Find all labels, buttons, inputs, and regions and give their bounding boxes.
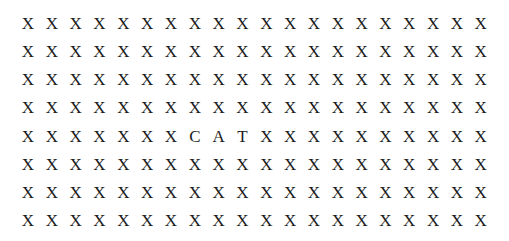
grid-cell: X [234, 155, 250, 175]
grid-cell: C [187, 127, 203, 147]
grid-cell: X [44, 183, 60, 203]
grid-cell: X [282, 127, 298, 147]
grid-cell: X [211, 155, 227, 175]
grid-cell: X [330, 14, 346, 34]
grid-cell: X [68, 42, 84, 62]
grid-row: XXXXXXXXXXXXXXXXXXXX [20, 155, 489, 175]
grid-cell: X [473, 211, 489, 231]
grid-cell: X [139, 211, 155, 231]
grid-cell: X [449, 211, 465, 231]
grid-cell: X [377, 98, 393, 118]
grid-cell: X [139, 155, 155, 175]
grid-cell: X [91, 127, 107, 147]
grid-cell: X [20, 14, 36, 34]
grid-cell: X [211, 98, 227, 118]
grid-cell: X [91, 183, 107, 203]
grid-cell: X [44, 127, 60, 147]
grid-cell: X [68, 98, 84, 118]
grid-cell: X [258, 127, 274, 147]
grid-row: XXXXXXXXXXXXXXXXXXXX [20, 98, 489, 118]
grid-cell: X [20, 70, 36, 90]
grid-cell: X [473, 70, 489, 90]
grid-cell: X [187, 70, 203, 90]
grid-cell: X [115, 183, 131, 203]
grid-cell: X [20, 155, 36, 175]
grid-cell: X [401, 98, 417, 118]
grid-cell: X [282, 183, 298, 203]
grid-cell: X [306, 183, 322, 203]
grid-cell: X [258, 42, 274, 62]
grid-cell: X [354, 70, 370, 90]
grid-row: XXXXXXXXXXXXXXXXXXXX [20, 14, 489, 34]
grid-cell: X [306, 98, 322, 118]
grid-cell: X [473, 183, 489, 203]
grid-cell: X [473, 42, 489, 62]
grid-cell: X [282, 42, 298, 62]
grid-cell: X [258, 155, 274, 175]
grid-cell: X [449, 155, 465, 175]
grid-cell: X [20, 183, 36, 203]
grid-cell: X [473, 14, 489, 34]
grid-row: XXXXXXXCATXXXXXXXXXX [20, 127, 489, 147]
grid-cell: X [258, 70, 274, 90]
grid-cell: X [425, 14, 441, 34]
grid-cell: X [91, 42, 107, 62]
grid-cell: X [20, 127, 36, 147]
grid-cell: X [354, 42, 370, 62]
grid-cell: X [306, 127, 322, 147]
grid-cell: X [258, 14, 274, 34]
grid-cell: X [330, 127, 346, 147]
grid-cell: X [401, 155, 417, 175]
grid-cell: X [211, 42, 227, 62]
grid-cell: X [139, 183, 155, 203]
grid-cell: X [115, 211, 131, 231]
grid-cell: X [234, 211, 250, 231]
grid-cell: X [68, 183, 84, 203]
grid-cell: X [377, 127, 393, 147]
grid-cell: X [401, 183, 417, 203]
grid-cell: X [44, 70, 60, 90]
grid-cell: X [330, 211, 346, 231]
grid-cell: X [234, 98, 250, 118]
grid-cell: X [401, 127, 417, 147]
grid-cell: X [44, 155, 60, 175]
grid-cell: A [211, 127, 227, 147]
grid-cell: X [401, 211, 417, 231]
grid-cell: X [163, 183, 179, 203]
grid-cell: X [187, 155, 203, 175]
grid-cell: X [139, 70, 155, 90]
grid-cell: X [91, 70, 107, 90]
grid-row: XXXXXXXXXXXXXXXXXXXX [20, 183, 489, 203]
grid-cell: X [306, 42, 322, 62]
grid-cell: X [258, 211, 274, 231]
grid-cell: X [354, 155, 370, 175]
grid-cell: X [330, 155, 346, 175]
grid-cell: X [473, 127, 489, 147]
grid-cell: X [377, 42, 393, 62]
grid-cell: X [211, 70, 227, 90]
grid-row: XXXXXXXXXXXXXXXXXXXX [20, 70, 489, 90]
grid-cell: X [425, 42, 441, 62]
grid-cell: X [401, 70, 417, 90]
grid-cell: T [234, 127, 250, 147]
grid-cell: X [377, 70, 393, 90]
grid-cell: X [163, 155, 179, 175]
grid-cell: X [163, 70, 179, 90]
grid-cell: X [187, 211, 203, 231]
grid-cell: X [449, 70, 465, 90]
grid-cell: X [377, 183, 393, 203]
grid-cell: X [163, 98, 179, 118]
grid-cell: X [473, 155, 489, 175]
grid-cell: X [449, 183, 465, 203]
grid-cell: X [211, 183, 227, 203]
grid-cell: X [425, 211, 441, 231]
grid-cell: X [139, 127, 155, 147]
grid-cell: X [44, 98, 60, 118]
grid-cell: X [282, 98, 298, 118]
grid-cell: X [68, 70, 84, 90]
grid-cell: X [91, 211, 107, 231]
grid-cell: X [68, 14, 84, 34]
grid-cell: X [163, 14, 179, 34]
grid-cell: X [234, 183, 250, 203]
grid-cell: X [68, 127, 84, 147]
